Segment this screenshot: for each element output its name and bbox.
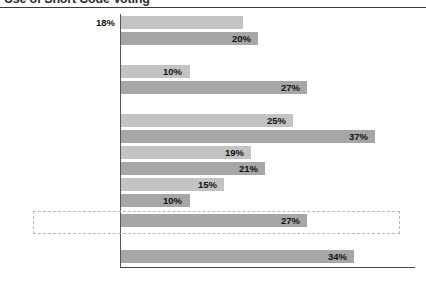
chart-container: Use of Short Code Voting 2012 18% 2011 2…: [0, 0, 426, 284]
plot-area: 2012 18% 2011 20% Regular cell 10% Smart…: [0, 0, 426, 284]
bar-value-label: 25%: [267, 114, 286, 127]
bar-value-label: 10%: [163, 65, 182, 78]
bar: [121, 81, 307, 94]
bar-value-label: 21%: [239, 162, 258, 175]
bar: [121, 130, 375, 143]
bar: [121, 250, 354, 263]
bar: [121, 16, 243, 29]
bar-value-label: 18%: [96, 16, 115, 29]
bar-value-label: 19%: [225, 146, 244, 159]
bar-value-label: 10%: [163, 194, 182, 207]
bar-value-label: 20%: [232, 32, 251, 45]
bar-value-label: 27%: [281, 81, 300, 94]
bar-value-label: 15%: [198, 178, 217, 191]
bar-value-label: 27%: [281, 214, 300, 227]
bar-value-label: 34%: [328, 250, 347, 263]
bar: [121, 214, 307, 227]
bar-value-label: 37%: [349, 130, 368, 143]
bottom-axis-rule: [120, 267, 415, 268]
